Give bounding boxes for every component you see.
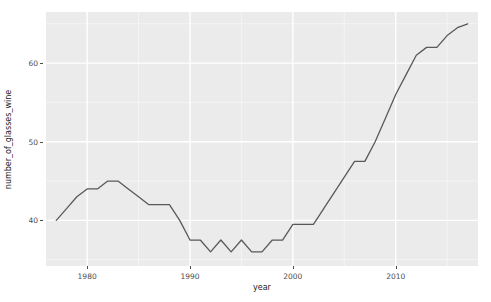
x-axis-tick-labels: 1980199020002010 xyxy=(46,266,478,282)
y-tick-label: 40 xyxy=(28,216,38,225)
series-line xyxy=(46,12,478,266)
x-tick-mark xyxy=(190,266,191,269)
plot-panel xyxy=(46,12,478,266)
chart-figure: number_of_glasses_wine 405060 1980199020… xyxy=(0,0,491,302)
y-tick-mark xyxy=(40,142,43,143)
x-tick-label: 1980 xyxy=(78,272,97,281)
x-tick-mark xyxy=(293,266,294,269)
y-tick-mark xyxy=(40,63,43,64)
x-tick-label: 2010 xyxy=(386,272,405,281)
y-axis-tick-labels: 405060 xyxy=(0,12,38,266)
x-tick-mark xyxy=(87,266,88,269)
y-tick-label: 60 xyxy=(28,59,38,68)
y-tick-mark xyxy=(40,220,43,221)
x-tick-label: 1990 xyxy=(180,272,199,281)
x-tick-label: 2000 xyxy=(283,272,302,281)
x-axis-title: year xyxy=(46,283,478,292)
x-tick-mark xyxy=(396,266,397,269)
y-tick-label: 50 xyxy=(28,137,38,146)
